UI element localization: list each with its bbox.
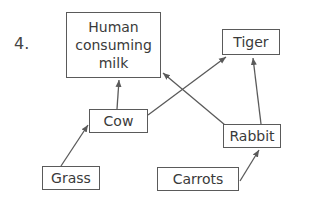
node-label: Grass: [51, 169, 91, 187]
node-label: Tiger: [233, 33, 268, 51]
node-label: Rabbit: [229, 127, 274, 145]
node-label: Cow: [104, 112, 134, 130]
node-cow: Cow: [89, 109, 148, 133]
node-human-consuming-milk: Human consuming milk: [66, 12, 161, 78]
node-tiger: Tiger: [222, 29, 280, 55]
node-label-line: milk: [99, 54, 129, 72]
arrow-carrots-to-rabbit: [240, 150, 259, 181]
node-label: Carrots: [173, 170, 224, 188]
node-grass: Grass: [42, 166, 100, 190]
node-label-line: consuming: [75, 36, 152, 54]
arrow-rabbit-to-tiger: [253, 58, 261, 124]
arrow-cow-to-human: [117, 80, 119, 109]
arrow-grass-to-cow: [61, 125, 88, 166]
node-label-line: Human: [88, 18, 139, 36]
node-rabbit: Rabbit: [223, 124, 281, 148]
node-carrots: Carrots: [157, 167, 239, 191]
